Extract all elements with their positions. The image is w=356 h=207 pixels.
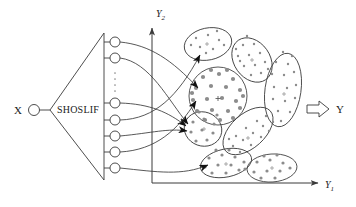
figure-canvas: X SHOSLIF xyxy=(0,0,356,207)
shoslif-module: SHOSLIF xyxy=(50,33,104,180)
output-node-2 xyxy=(104,53,120,63)
cluster-right-tall xyxy=(260,51,306,129)
link-node5-to-mid-left xyxy=(120,130,187,136)
y2-axis-label: Y2 xyxy=(156,8,166,22)
output-block-arrow-icon xyxy=(307,101,329,117)
output-node-3 xyxy=(104,98,120,108)
dots-top-left xyxy=(190,30,225,54)
output-node-5 xyxy=(104,131,120,141)
output-label: Y xyxy=(336,103,344,115)
link-node7-to-bottom-left xyxy=(120,165,208,172)
node-ellipsis xyxy=(114,72,116,92)
input-label: X xyxy=(14,104,22,116)
output-node-4 xyxy=(104,115,120,125)
y1-axis-label: Y1 xyxy=(325,179,334,193)
link-node1-to-center xyxy=(120,42,198,88)
cluster-field xyxy=(179,23,306,183)
connection-curves xyxy=(120,42,208,172)
output-node-7 xyxy=(104,163,120,173)
dots-top-right xyxy=(235,35,269,76)
link-node3-to-mid-left xyxy=(120,103,186,126)
input-group: X xyxy=(14,104,50,116)
feature-space-axes: Y2 Y1 xyxy=(152,8,334,193)
dots-mid-left xyxy=(189,110,218,142)
shoslif-label: SHOSLIF xyxy=(57,104,99,115)
output-node-column xyxy=(104,37,120,173)
input-node xyxy=(29,105,40,116)
output-group: Y xyxy=(307,101,344,117)
output-node-6 xyxy=(104,147,120,157)
shoslif-diagram: X SHOSLIF xyxy=(0,0,356,207)
output-node-1 xyxy=(104,37,120,47)
